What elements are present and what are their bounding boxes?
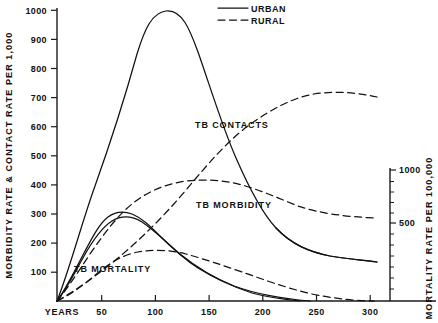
x-ticklabel-300: 300 — [362, 307, 378, 317]
x-ticklabel-100: 100 — [147, 307, 163, 317]
y-ticklabel-700: 700 — [31, 93, 47, 103]
curve-tb-contacts-urban — [57, 11, 377, 301]
annotation-tb-contacts: TB CONTACTS — [195, 120, 269, 130]
curve-tb-mortality-rural — [57, 250, 374, 301]
y-ticklabel-800: 800 — [31, 64, 47, 74]
x-ticklabel-150: 150 — [201, 307, 217, 317]
right-y-axis: 1000 500 MORTALITY RATE PER 100,000 — [390, 157, 434, 320]
x-axis-title: YEARS — [45, 307, 80, 317]
y-ticklabel-900: 900 — [31, 35, 47, 45]
curve-tb-morbidity-rural — [57, 180, 377, 301]
chart-svg: 1000 900 800 700 600 500 400 300 200 100… — [0, 0, 438, 323]
y-ticklabel-300: 300 — [31, 209, 47, 219]
legend-label-rural: RURAL — [251, 16, 285, 26]
y2-ticklabel-500: 500 — [399, 218, 415, 228]
y-ticklabel-500: 500 — [31, 151, 47, 161]
annotation-tb-mortality: TB MORTALITY — [74, 264, 151, 274]
left-axis-title: MORBIDITY RATE & CONTACT RATE PER 1,000 — [4, 32, 14, 279]
annotation-tb-morbidity: TB MORBIDITY — [196, 200, 272, 210]
legend: URBAN RURAL — [218, 4, 286, 26]
y-ticklabel-1000: 1000 — [25, 6, 47, 16]
curve-tb-mortality-urban — [57, 217, 310, 301]
tb-epidemiology-chart: 1000 900 800 700 600 500 400 300 200 100… — [0, 0, 438, 323]
curves-layer — [57, 11, 377, 301]
curve-tb-morbidity-urban-upper — [276, 228, 377, 262]
x-axis: 50 100 150 200 250 300 YEARS — [45, 295, 436, 317]
legend-label-urban: URBAN — [251, 4, 286, 14]
x-ticklabel-250: 250 — [308, 307, 324, 317]
y-ticklabel-200: 200 — [31, 238, 47, 248]
y-ticklabel-100: 100 — [31, 267, 47, 277]
x-ticklabel-50: 50 — [96, 307, 107, 317]
y2-ticklabel-1000: 1000 — [399, 165, 421, 175]
y-ticklabel-400: 400 — [31, 180, 47, 190]
left-y-axis: 1000 900 800 700 600 500 400 300 200 100… — [4, 6, 57, 302]
curve-tb-morbidity-urban — [57, 212, 300, 301]
x-ticklabel-200: 200 — [255, 307, 271, 317]
y-ticklabel-600: 600 — [31, 122, 47, 132]
right-axis-title: MORTALITY RATE PER 100,000 — [424, 157, 434, 320]
